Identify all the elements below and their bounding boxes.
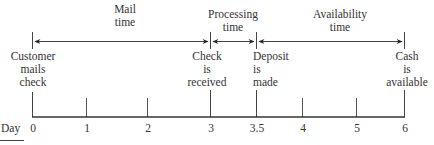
period-line2: time	[95, 16, 155, 29]
period-label-availability: Availability time	[300, 8, 380, 34]
period-line1: Mail	[95, 3, 155, 16]
tick-label-2: 2	[145, 122, 151, 135]
period-line1: Processing	[203, 8, 263, 21]
tick-label-6: 6	[402, 122, 408, 135]
event-label-deposit-made: Deposit is made	[253, 50, 303, 89]
event-line: is	[382, 63, 432, 76]
event-line: is	[253, 63, 303, 76]
period-label-processing: Processing time	[203, 8, 263, 34]
float-timeline-diagram: Mail time Processing time Availability t…	[0, 0, 434, 145]
event-label-cash-available: Cash is available	[382, 50, 432, 89]
event-label-check-received: Check is received	[182, 50, 232, 89]
tick-label-0: 0	[30, 122, 36, 135]
period-line2: time	[300, 21, 380, 34]
tick-label-4: 4	[300, 122, 306, 135]
event-line: Deposit	[253, 50, 303, 63]
tick-label-1: 1	[84, 122, 90, 135]
period-label-mail: Mail time	[95, 3, 155, 29]
tick-label-3-5: 3.5	[250, 122, 264, 135]
event-line: Check	[182, 50, 232, 63]
footnote-rule	[0, 140, 24, 141]
event-label-customer-mails-check: Customer mails check	[2, 50, 64, 89]
period-line2: time	[203, 21, 263, 34]
event-line: made	[253, 76, 303, 89]
event-line: Customer	[2, 50, 64, 63]
tick-label-5: 5	[354, 122, 360, 135]
event-line: check	[2, 76, 64, 89]
event-line: available	[382, 76, 432, 89]
tick-label-3: 3	[208, 122, 214, 135]
axis-day-label: Day	[1, 122, 20, 135]
event-line: is	[182, 63, 232, 76]
event-line: received	[182, 76, 232, 89]
period-line1: Availability	[300, 8, 380, 21]
event-line: mails	[2, 63, 64, 76]
event-line: Cash	[382, 50, 432, 63]
